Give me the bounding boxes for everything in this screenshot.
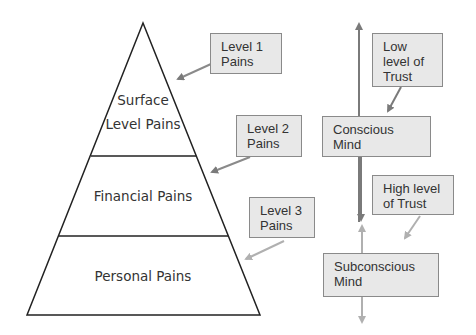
surface-label-line1: Surface bbox=[93, 88, 193, 112]
low-trust-arrow bbox=[388, 87, 401, 111]
callout-3-line2: Pains bbox=[260, 218, 314, 233]
level1-arrow bbox=[178, 64, 211, 79]
callout-level-1: Level 1 Pains bbox=[210, 33, 282, 74]
low-trust-line1: Low bbox=[383, 39, 442, 54]
pyramid-level-personal: Personal Pains bbox=[63, 264, 223, 288]
pyramid-level-financial: Financial Pains bbox=[63, 184, 223, 208]
conscious-line1: Conscious bbox=[333, 122, 430, 137]
low-trust-line2: level of bbox=[383, 54, 442, 69]
callout-1-line2: Pains bbox=[221, 54, 281, 69]
callout-level-3: Level 3 Pains bbox=[249, 197, 315, 238]
high-trust-box: High level of Trust bbox=[372, 175, 454, 215]
level2-arrow bbox=[212, 157, 250, 172]
conscious-line2: Mind bbox=[333, 137, 430, 152]
financial-label: Financial Pains bbox=[94, 188, 193, 204]
high-trust-line1: High level bbox=[383, 181, 453, 196]
low-trust-box: Low level of Trust bbox=[372, 33, 443, 87]
subconscious-line2: Mind bbox=[334, 274, 438, 289]
callout-1-line1: Level 1 bbox=[221, 39, 281, 54]
conscious-mind-box: Conscious Mind bbox=[322, 116, 431, 157]
subconscious-line1: Subconscious bbox=[334, 259, 438, 274]
high-trust-arrow bbox=[405, 216, 420, 238]
personal-label: Personal Pains bbox=[95, 268, 192, 284]
level3-arrow bbox=[246, 241, 284, 259]
subconscious-mind-box: Subconscious Mind bbox=[323, 253, 439, 297]
callout-level-2: Level 2 Pains bbox=[236, 115, 302, 157]
callout-2-line1: Level 2 bbox=[247, 121, 301, 136]
surface-label-line2: Level Pains bbox=[93, 112, 193, 136]
high-trust-line2: of Trust bbox=[383, 196, 453, 211]
callout-2-line2: Pains bbox=[247, 136, 301, 151]
pyramid-level-surface: Surface Level Pains bbox=[93, 88, 193, 136]
callout-3-line1: Level 3 bbox=[260, 203, 314, 218]
low-trust-line3: Trust bbox=[383, 69, 442, 84]
